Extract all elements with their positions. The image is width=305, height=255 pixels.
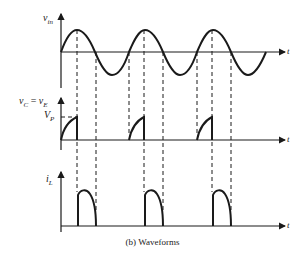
dashed-guides [61, 30, 231, 210]
vc-t-label: t [287, 134, 290, 144]
il-plot [61, 172, 285, 232]
waveform-diagram [0, 0, 305, 255]
il-axis-label: iL [46, 173, 53, 187]
vin-plot [61, 14, 285, 88]
vp-level-label: VP [44, 109, 54, 123]
vc-axis-label: vC = vE [19, 95, 48, 109]
vin-t-label: t [287, 46, 290, 56]
figure-caption: (b) Waveforms [0, 237, 305, 247]
vin-axis-label: vin [43, 12, 53, 26]
vc-plot [61, 98, 285, 150]
waveforms-figure: vin t vC = vE VP t iL t (b) Waveforms [0, 0, 305, 255]
il-t-label: t [287, 220, 290, 230]
vc-ramp-curves [61, 117, 212, 140]
il-pulses [78, 190, 231, 226]
